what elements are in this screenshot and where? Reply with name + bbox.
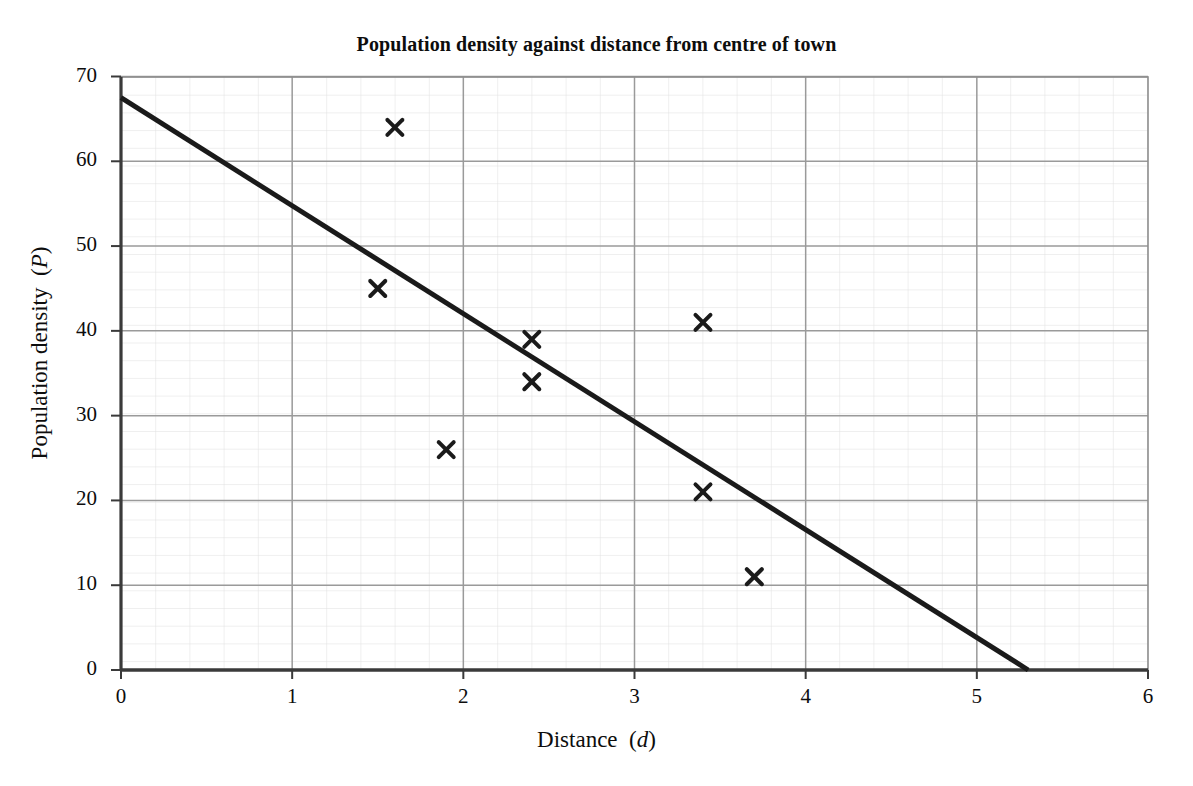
chart-figure: Population density against distance from… <box>0 0 1193 786</box>
x-tick-label: 4 <box>776 684 836 709</box>
y-tick-label: 0 <box>37 656 97 681</box>
y-tick-label: 60 <box>37 147 97 172</box>
plot-area <box>0 0 1193 786</box>
y-tick-label: 40 <box>37 317 97 342</box>
x-tick-label: 6 <box>1118 684 1178 709</box>
y-tick-label: 20 <box>37 486 97 511</box>
x-tick-label: 0 <box>91 684 151 709</box>
y-tick-label: 30 <box>37 402 97 427</box>
x-tick-label: 2 <box>433 684 493 709</box>
y-tick-label: 50 <box>37 232 97 257</box>
x-tick-label: 3 <box>605 684 665 709</box>
y-tick-label: 10 <box>37 571 97 596</box>
y-tick-label: 70 <box>37 63 97 88</box>
x-tick-label: 1 <box>262 684 322 709</box>
x-tick-label: 5 <box>947 684 1007 709</box>
